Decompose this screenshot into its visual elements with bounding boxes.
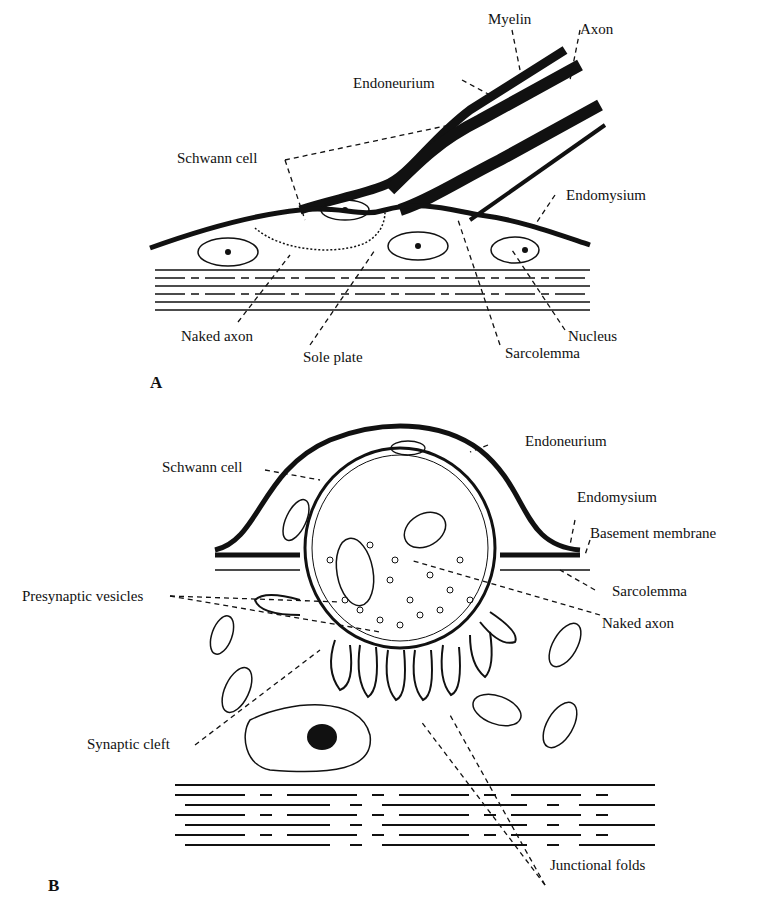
- label-endoneurium: Endoneurium: [353, 76, 435, 91]
- label-nucleus: Nucleus: [568, 329, 617, 344]
- label-presynaptic-vesicles: Presynaptic vesicles: [22, 589, 143, 604]
- endomysium-surface: [150, 206, 590, 248]
- label-axon: Axon: [580, 22, 613, 37]
- myelin-sheath-upper: [300, 50, 565, 210]
- label-sarcolemma: Sarcolemma: [505, 346, 580, 361]
- panel-a-drawing: [0, 0, 771, 905]
- panel-letter-a: A: [150, 373, 162, 393]
- label-sole-plate: Sole plate: [303, 350, 363, 365]
- label-myelin: Myelin: [488, 12, 531, 27]
- label-endomysium-b: Endomysium: [577, 490, 657, 505]
- label-synaptic-cleft: Synaptic cleft: [87, 737, 170, 752]
- label-basement-membrane: Basement membrane: [590, 526, 716, 541]
- label-schwann-cell: Schwann cell: [177, 151, 257, 166]
- label-schwann-cell-b: Schwann cell: [162, 460, 242, 475]
- label-sarcolemma-b: Sarcolemma: [612, 584, 687, 599]
- sole-plate: [255, 212, 385, 250]
- label-endomysium: Endomysium: [566, 188, 646, 203]
- panel-letter-b: B: [48, 876, 59, 896]
- myofibril-striations: [155, 270, 590, 310]
- label-naked-axon-b: Naked axon: [602, 616, 674, 631]
- label-naked-axon: Naked axon: [181, 329, 253, 344]
- label-endoneurium-b: Endoneurium: [525, 434, 607, 449]
- label-junctional-folds: Junctional folds: [550, 858, 645, 873]
